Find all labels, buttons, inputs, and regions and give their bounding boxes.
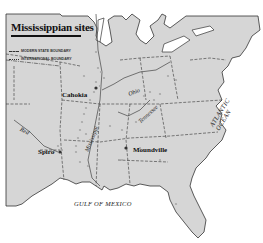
legend-item-international-boundary: INTERNATIONAL BOUNDARY: [9, 57, 72, 61]
legend-underline: [11, 35, 81, 37]
site-label-cahokia: Cahokia: [62, 91, 87, 99]
legend-item-label: INTERNATIONAL BOUNDARY: [21, 57, 72, 61]
cahokia-marker: [94, 86, 97, 89]
site-label-spiro: Spiro: [38, 148, 54, 156]
legend-title: Mississippian sites: [11, 21, 94, 33]
legend-item-label: MODERN STATE BOUNDARY: [21, 49, 71, 53]
legend-item-state-boundary: MODERN STATE BOUNDARY: [9, 49, 71, 53]
site-label-moundville: Moundville: [133, 146, 167, 154]
dashed-line-icon: [9, 51, 19, 52]
water-label-gulf-of-mexico: GULF OF MEXICO: [74, 200, 132, 207]
moundville-marker: [124, 146, 127, 149]
spiro-marker: [58, 150, 61, 153]
dash-dot-line-icon: [9, 59, 19, 60]
